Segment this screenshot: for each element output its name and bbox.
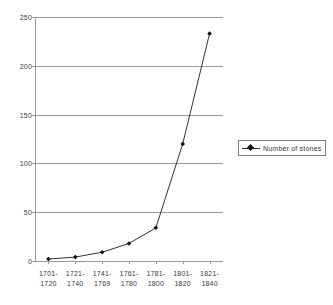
y-tick-label: 250 — [2, 14, 32, 21]
x-tick-label: 1821-1840 — [188, 269, 232, 288]
x-tick-mark — [210, 261, 211, 264]
line-chart: 250 200 150 100 50 0 1701-17201721-17401… — [0, 0, 333, 305]
x-tick-mark — [183, 261, 184, 264]
y-tick-mark — [32, 261, 35, 262]
y-tick-mark — [32, 115, 35, 116]
y-axis-labels: 250 200 150 100 50 0 — [0, 0, 32, 305]
x-tick-label-line: 1840 — [188, 279, 232, 289]
y-tick-label: 100 — [2, 160, 32, 167]
y-tick-mark — [32, 163, 35, 164]
y-tick-label: 200 — [2, 63, 32, 70]
data-point — [207, 31, 212, 36]
y-tick-mark — [32, 66, 35, 67]
chart-legend: Number of stones — [238, 140, 326, 156]
y-tick-mark — [32, 17, 35, 18]
x-tick-mark — [48, 261, 49, 264]
x-tick-mark — [75, 261, 76, 264]
y-tick-label: 0 — [2, 258, 32, 265]
data-point — [100, 250, 105, 255]
y-tick-label: 150 — [2, 112, 32, 119]
x-tick-label-line: 1821- — [188, 269, 232, 279]
y-tick-mark — [32, 212, 35, 213]
data-point — [154, 226, 159, 231]
legend-label: Number of stones — [263, 145, 321, 152]
y-axis-line — [35, 17, 36, 262]
data-point — [180, 142, 185, 147]
x-tick-mark — [102, 261, 103, 264]
plot-area — [35, 17, 223, 261]
y-tick-label: 50 — [2, 209, 32, 216]
x-tick-mark — [129, 261, 130, 264]
legend-marker-icon — [242, 144, 260, 152]
data-point — [73, 255, 78, 260]
data-point — [127, 241, 132, 246]
x-tick-mark — [156, 261, 157, 264]
series-number-of-stones — [35, 17, 223, 261]
